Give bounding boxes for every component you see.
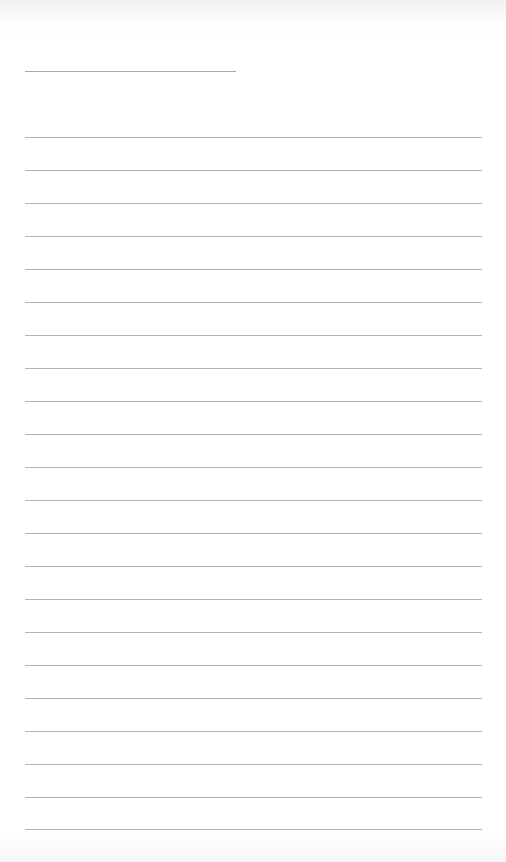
ruled-line bbox=[25, 533, 482, 534]
ruled-line bbox=[25, 566, 482, 567]
lined-paper-sheet bbox=[0, 0, 506, 862]
ruled-line bbox=[25, 302, 482, 303]
header-name-line bbox=[25, 71, 236, 72]
ruled-line bbox=[25, 401, 482, 402]
ruled-line bbox=[25, 368, 482, 369]
ruled-line bbox=[25, 203, 482, 204]
ruled-line bbox=[25, 434, 482, 435]
ruled-line bbox=[25, 665, 482, 666]
ruled-line bbox=[25, 170, 482, 171]
ruled-line bbox=[25, 335, 482, 336]
ruled-line bbox=[25, 797, 482, 798]
ruled-line bbox=[25, 467, 482, 468]
ruled-line bbox=[25, 698, 482, 699]
ruled-line bbox=[25, 269, 482, 270]
ruled-line bbox=[25, 137, 482, 138]
ruled-line bbox=[25, 764, 482, 765]
ruled-line bbox=[25, 632, 482, 633]
ruled-line bbox=[25, 829, 482, 830]
ruled-line bbox=[25, 599, 482, 600]
ruled-line bbox=[25, 236, 482, 237]
ruled-line bbox=[25, 500, 482, 501]
ruled-line bbox=[25, 731, 482, 732]
